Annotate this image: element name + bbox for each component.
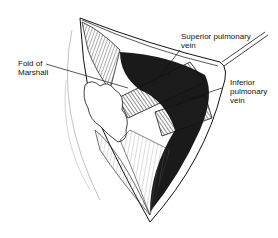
label-superior-pulmonary-vein: Superior pulmonary vein bbox=[181, 32, 251, 50]
label-line: pulmonary bbox=[230, 87, 267, 96]
label-inferior-pulmonary-vein: Inferior pulmonary vein bbox=[230, 78, 267, 105]
label-line: Superior pulmonary bbox=[181, 32, 251, 41]
label-line: Marshall bbox=[18, 68, 48, 77]
label-line: vein bbox=[181, 41, 251, 50]
label-line: Fold of bbox=[18, 59, 48, 68]
label-line: Inferior bbox=[230, 78, 267, 87]
label-line: vein bbox=[230, 96, 267, 105]
label-fold-of-marshall: Fold of Marshall bbox=[18, 59, 48, 77]
